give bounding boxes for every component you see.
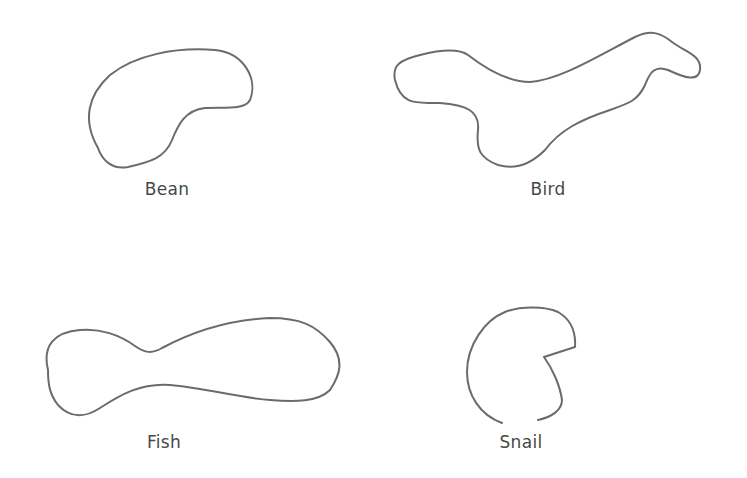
fish-label: Fish	[147, 432, 181, 452]
snail-label: Snail	[500, 432, 543, 452]
bird-label: Bird	[530, 179, 565, 199]
snail-shape	[467, 308, 575, 424]
fish-shape	[47, 318, 340, 415]
bean-shape	[89, 49, 252, 167]
bean-label: Bean	[145, 179, 190, 199]
bird-shape	[394, 33, 700, 167]
figure-canvas	[0, 0, 747, 478]
